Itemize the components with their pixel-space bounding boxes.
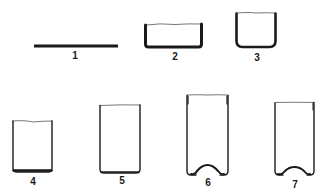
stage-6-can-domed-bottom bbox=[187, 95, 228, 175]
stage-5-label: 5 bbox=[119, 176, 125, 186]
stage-1-label: 1 bbox=[72, 51, 78, 61]
stage-7-can-domed-bottom bbox=[275, 102, 314, 175]
stage-7-label: 7 bbox=[292, 180, 298, 190]
diagram-canvas bbox=[0, 0, 328, 194]
stage-4-label: 4 bbox=[30, 177, 36, 187]
stage-3-cup bbox=[237, 13, 276, 48]
stage-5-tall-cup bbox=[100, 105, 140, 173]
stage-4-deeper-cup bbox=[13, 121, 52, 172]
stage-3-label: 3 bbox=[254, 53, 260, 63]
stage-2-shallow-cup bbox=[146, 24, 202, 47]
stage-1-flat-blank bbox=[34, 45, 118, 48]
stage-6-label: 6 bbox=[205, 178, 211, 188]
stage-2-label: 2 bbox=[172, 52, 178, 62]
